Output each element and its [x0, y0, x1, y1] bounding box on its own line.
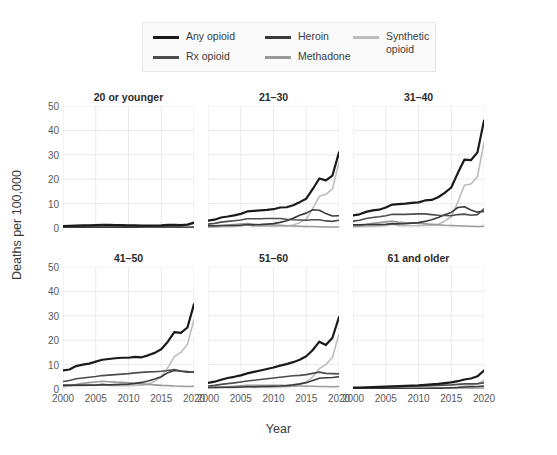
- legend-item[interactable]: Methadone: [265, 50, 351, 69]
- facet-panel-title: 61 and older: [353, 252, 484, 264]
- x-axis-tick-label: 2005: [85, 393, 107, 404]
- facet-panel-title: 21–30: [208, 91, 339, 103]
- facet-panel: 51–6020002005201020152020: [208, 252, 339, 389]
- facet-panel: 61 and older20002005201020152020: [353, 252, 484, 389]
- x-axis-tick-label: 2015: [150, 393, 172, 404]
- x-axis-tick-label: 2000: [197, 393, 219, 404]
- x-axis-tick-label: 2005: [230, 393, 252, 404]
- y-axis-tick-label: 30: [48, 310, 59, 321]
- legend-item-label: Methadone: [298, 50, 351, 63]
- y-axis-tick-label: 10: [48, 359, 59, 370]
- plot-area: 01020304050: [63, 106, 194, 228]
- x-axis-tick-label: 2010: [117, 393, 139, 404]
- y-axis-tick-label: 40: [48, 286, 59, 297]
- facet-panel: 21–30: [208, 91, 339, 228]
- plot-canvas: [208, 106, 339, 228]
- legend-line-swatch-icon: [153, 56, 179, 59]
- facet-panel-title: 31–40: [353, 91, 484, 103]
- y-axis-tick-label: 30: [48, 149, 59, 160]
- y-axis-tick-label: 50: [48, 101, 59, 112]
- legend-column: Synthetic opioid: [353, 30, 429, 50]
- legend-item[interactable]: Heroin: [265, 30, 351, 49]
- facet-panel-title: 41–50: [63, 252, 194, 264]
- plot-canvas: [353, 106, 484, 228]
- plot-canvas: [208, 267, 339, 389]
- facet-panel-title: 20 or younger: [63, 91, 194, 103]
- y-axis-tick-label: 20: [48, 335, 59, 346]
- plot-area: [353, 106, 484, 228]
- x-axis-tick-label: 2000: [52, 393, 74, 404]
- chart-legend: Any opioidRx opioidHeroinMethadoneSynthe…: [142, 22, 436, 72]
- legend-item-label: Any opioid: [186, 30, 235, 43]
- x-axis-tick-label: 2005: [375, 393, 397, 404]
- y-axis-tick-label: 20: [48, 174, 59, 185]
- plot-canvas: [63, 267, 194, 389]
- facet-panel: 20 or younger01020304050: [63, 91, 194, 228]
- plot-area: 0102030405020002005201020152020: [63, 267, 194, 389]
- legend-line-swatch-icon: [153, 36, 179, 39]
- legend-item[interactable]: Any opioid: [153, 30, 235, 49]
- legend-line-swatch-icon: [265, 36, 291, 39]
- x-axis-tick-label: 2010: [262, 393, 284, 404]
- x-axis-tick-label: 2010: [407, 393, 429, 404]
- legend-item[interactable]: Rx opioid: [153, 50, 235, 69]
- y-axis-tick-label: 40: [48, 125, 59, 136]
- chart-figure: Any opioidRx opioidHeroinMethadoneSynthe…: [0, 0, 557, 455]
- y-axis-label: Deaths per 100,000: [10, 145, 24, 305]
- x-axis-tick-label: 2015: [295, 393, 317, 404]
- plot-canvas: [353, 267, 484, 389]
- plot-area: 20002005201020152020: [208, 267, 339, 389]
- plot-area: [208, 106, 339, 228]
- plot-canvas: [63, 106, 194, 228]
- facet-panel: 31–40: [353, 91, 484, 228]
- legend-column: HeroinMethadone: [265, 30, 351, 70]
- x-axis-tick-label: 2000: [342, 393, 364, 404]
- x-axis-tick-label: 2020: [473, 393, 495, 404]
- legend-column: Any opioidRx opioid: [153, 30, 235, 70]
- legend-item-label: Rx opioid: [186, 50, 230, 63]
- legend-line-swatch-icon: [265, 56, 291, 59]
- y-axis-tick-label: 0: [53, 223, 59, 234]
- y-axis-tick-label: 10: [48, 198, 59, 209]
- plot-area: 20002005201020152020: [353, 267, 484, 389]
- legend-item-label: Heroin: [298, 30, 329, 43]
- legend-item[interactable]: Synthetic opioid: [353, 30, 429, 49]
- legend-item-label: Synthetic opioid: [386, 30, 429, 56]
- facet-panel: 41–500102030405020002005201020152020: [63, 252, 194, 389]
- x-axis-tick-label: 2015: [440, 393, 462, 404]
- legend-line-swatch-icon: [353, 36, 379, 39]
- x-axis-label: Year: [0, 422, 557, 436]
- facet-panel-title: 51–60: [208, 252, 339, 264]
- y-axis-tick-label: 50: [48, 262, 59, 273]
